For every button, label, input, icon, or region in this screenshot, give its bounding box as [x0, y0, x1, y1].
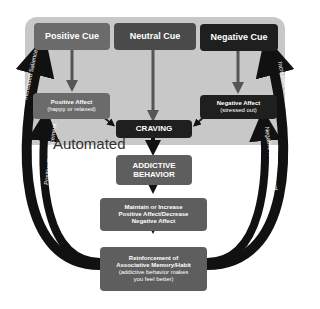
maintain-line1: Maintain or Increase — [124, 204, 182, 211]
craving-box: CRAVING — [116, 120, 192, 138]
addictive-line1: ADDICTIVE — [132, 161, 175, 170]
negative-affect-label: Negative Affect — [217, 100, 260, 107]
positive-cue-box: Positive Cue — [34, 23, 110, 50]
negative-cue-box: Negative Cue — [200, 24, 278, 51]
maintain-affect-box: Maintain or Increase Positive Affect/Dec… — [100, 198, 207, 231]
maintain-line3: Negative Affect — [132, 218, 175, 225]
reinforcement-line4: you feel better) — [133, 276, 173, 283]
neutral-cue-label: Neutral Cue — [130, 31, 181, 41]
negative-cue-label: Negative Cue — [210, 32, 267, 42]
positive-affect-label: Positive Affect — [51, 99, 92, 106]
negative-affect-box: Negative Affect (stressed out) — [200, 95, 277, 119]
positive-affect-sub: (happy or relaxed) — [47, 106, 96, 113]
negative-affect-sub: (stressed out) — [220, 107, 257, 114]
neutral-cue-box: Neutral Cue — [114, 23, 196, 50]
loop-increased-salience-left — [27, 55, 100, 265]
reinforcement-line3: (addictive behavior makes — [119, 269, 189, 276]
automated-label: Automated — [53, 135, 126, 152]
reinforcement-box: Reinforcement of Associative Memory/Habi… — [100, 247, 207, 291]
reinforcement-line2: Associative Memory/Habit — [116, 262, 191, 269]
craving-label: CRAVING — [136, 124, 172, 133]
addictive-behavior-box: ADDICTIVE BEHAVIOR — [116, 155, 192, 185]
positive-cue-label: Positive Cue — [45, 31, 99, 41]
positive-affect-box: Positive Affect (happy or relaxed) — [33, 93, 110, 119]
addictive-line2: BEHAVIOR — [133, 170, 175, 179]
maintain-line2: Positive Affect/Decrease — [119, 211, 189, 218]
reinforcement-line1: Reinforcement of — [129, 255, 178, 262]
